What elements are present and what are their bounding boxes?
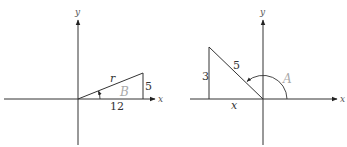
- left-diagram: x y r 5 12 B: [4, 7, 163, 145]
- left-angle-label: B: [119, 85, 129, 99]
- diagram-canvas: x y r 5 12 B x y 3 5 x A: [0, 0, 347, 147]
- right-angle-arc-icon: [247, 75, 287, 99]
- right-adjacent-label: x: [231, 99, 238, 112]
- right-hypotenuse: [209, 47, 263, 99]
- right-opposite-label: 3: [202, 70, 209, 83]
- right-y-axis-label: y: [259, 7, 266, 17]
- right-diagram: x y 3 5 x A: [190, 7, 345, 145]
- left-opposite-label: 5: [145, 80, 152, 93]
- right-angle-label: A: [282, 72, 292, 86]
- left-hypotenuse-label: r: [110, 72, 116, 85]
- right-x-axis-label: x: [340, 94, 345, 104]
- left-angle-arc-icon: [99, 91, 101, 99]
- left-x-axis-label: x: [158, 94, 163, 104]
- left-y-axis-label: y: [74, 7, 81, 17]
- right-hypotenuse-label: 5: [233, 59, 240, 72]
- left-adjacent-label: 12: [110, 100, 124, 113]
